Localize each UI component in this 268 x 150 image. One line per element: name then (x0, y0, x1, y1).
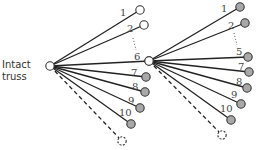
branch-number-label: 8 (236, 76, 242, 87)
branch-edge (149, 61, 231, 120)
branch-edge (149, 61, 249, 72)
member-node-icon (142, 73, 150, 81)
member-node-icon (243, 84, 251, 92)
branch-number-label: 8 (132, 81, 138, 92)
branch-number-label: 6 (134, 51, 140, 62)
branch-number-label: 5 (236, 46, 242, 57)
member-node-icon (136, 104, 144, 112)
root-label-line1: Intact (2, 59, 31, 71)
member-node-icon (236, 3, 244, 11)
dashed-branch-edge (149, 61, 222, 135)
unknown-node-icon (218, 131, 226, 139)
ellipsis-dots (234, 33, 237, 45)
branch-number-label: 10 (119, 107, 132, 118)
intact-truss-root-node-icon (46, 62, 54, 70)
root-label-line2: truss (2, 71, 31, 83)
member-node-icon (245, 68, 253, 76)
ellipsis-layer (133, 33, 237, 50)
member-node-icon (141, 88, 149, 96)
failure-tree-diagram: 1267891012578910 (0, 0, 268, 150)
member-node-icon (127, 120, 135, 128)
branch-number-label: 7 (238, 61, 244, 72)
branch-number-label: 1 (120, 7, 126, 18)
member-node-icon (237, 100, 245, 108)
branch-number-label: 7 (131, 67, 137, 78)
member-node-icon (241, 19, 249, 27)
branch-number-label: 10 (220, 103, 233, 114)
branch-number-label: 1 (221, 3, 227, 14)
dashed-branch-edge (50, 66, 122, 141)
member-node-icon (244, 53, 252, 61)
branch-edge (149, 57, 248, 61)
branch-edge (50, 10, 140, 66)
member-node-icon (227, 116, 235, 124)
unknown-node-icon (118, 137, 126, 145)
branch-number-label: 2 (127, 23, 133, 34)
ellipsis-dots (133, 38, 136, 50)
root-node-icon (145, 57, 153, 65)
member-node-icon (136, 6, 144, 14)
branch-number-label: 9 (231, 89, 237, 100)
branch-edge (149, 7, 240, 61)
member-node-icon (140, 21, 148, 29)
branch-labels-layer: 1267891012578910 (119, 3, 244, 118)
branch-number-label: 2 (228, 20, 234, 31)
branch-number-label: 9 (128, 95, 134, 106)
root-label: Intact truss (2, 59, 31, 83)
